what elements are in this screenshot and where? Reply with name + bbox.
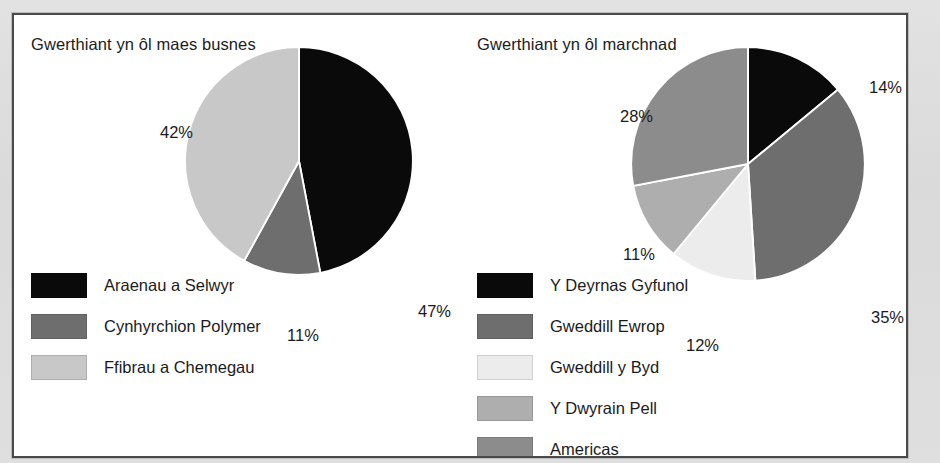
pie-label-uk-percent: 14% xyxy=(869,78,902,97)
legend-item: Y Deyrnas Gyfunol xyxy=(477,265,688,306)
pie-slice xyxy=(299,47,413,273)
legend-item: Y Dwyrain Pell xyxy=(477,388,688,429)
legend-swatch-y-dwyrain-pell xyxy=(477,396,533,421)
legend-label-gweddill-y-byd: Gweddill y Byd xyxy=(550,358,659,377)
legend-label-gweddill-ewrop: Gweddill Ewrop xyxy=(550,317,665,336)
pie-slices-business-area xyxy=(184,46,414,276)
legend-item: Araenau a Selwyr xyxy=(31,265,261,306)
legend-market: Y Deyrnas Gyfunol Gweddill Ewrop Gweddil… xyxy=(477,265,688,458)
chart-panel-market: Gwerthiant yn ôl marchnad 28% 14% 35% 11… xyxy=(460,15,906,456)
legend-item: Ffibrau a Chemegau xyxy=(31,347,261,388)
legend-business-area: Araenau a Selwyr Cynhyrchion Polymer Ffi… xyxy=(31,265,261,388)
figure-frame: Gwerthiant yn ôl maes busnes 42% 47% 11%… xyxy=(12,13,908,458)
legend-swatch-cynhyrchion-polymer xyxy=(31,314,87,339)
legend-swatch-araenau-a-selwyr xyxy=(31,273,87,298)
pie-label-americas-percent: 28% xyxy=(620,107,653,126)
legend-item: Cynhyrchion Polymer xyxy=(31,306,261,347)
legend-item: Americas xyxy=(477,429,688,458)
pie-label-rest-of-world-percent: 12% xyxy=(686,336,719,355)
legend-item: Gweddill Ewrop xyxy=(477,306,688,347)
pie-label-far-east-percent: 11% xyxy=(623,245,655,264)
scanned-page-background: Gwerthiant yn ôl maes busnes 42% 47% 11%… xyxy=(0,0,940,463)
chart-panel-business-area: Gwerthiant yn ôl maes busnes 42% 47% 11%… xyxy=(14,15,460,456)
pie-label-coatings-percent: 47% xyxy=(418,302,451,321)
pie-chart-business-area xyxy=(184,46,414,276)
pie-label-fibres-percent: 42% xyxy=(160,123,193,142)
pie-label-rest-of-europe-percent: 35% xyxy=(871,308,904,327)
legend-label-y-dwyrain-pell: Y Dwyrain Pell xyxy=(550,399,657,418)
legend-label-americas: Americas xyxy=(550,440,619,458)
legend-item: Gweddill y Byd xyxy=(477,347,688,388)
legend-label-y-deyrnas-gyfunol: Y Deyrnas Gyfunol xyxy=(550,276,688,295)
legend-swatch-y-deyrnas-gyfunol xyxy=(477,273,533,298)
legend-label-araenau-a-selwyr: Araenau a Selwyr xyxy=(104,276,234,295)
legend-label-cynhyrchion-polymer: Cynhyrchion Polymer xyxy=(104,317,261,336)
pie-slices-market xyxy=(630,46,866,282)
legend-label-ffibrau-a-chemegau: Ffibrau a Chemegau xyxy=(104,358,254,377)
pie-label-polymer-percent: 11% xyxy=(287,326,319,345)
legend-swatch-gweddill-ewrop xyxy=(477,314,533,339)
pie-chart-market xyxy=(630,46,866,282)
legend-swatch-americas xyxy=(477,437,533,458)
legend-swatch-gweddill-y-byd xyxy=(477,355,533,380)
legend-swatch-ffibrau-a-chemegau xyxy=(31,355,87,380)
